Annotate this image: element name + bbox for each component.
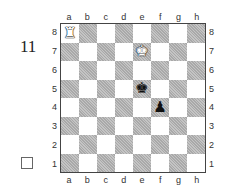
square-c8 xyxy=(97,24,115,43)
square-b3 xyxy=(79,117,97,136)
rank-labels-left: 8 7 6 5 4 3 2 1 xyxy=(52,23,57,173)
square-b8 xyxy=(79,24,97,43)
square-e2 xyxy=(133,135,151,154)
side-to-move-box xyxy=(21,157,33,169)
square-f5 xyxy=(151,80,169,99)
square-d4 xyxy=(115,98,133,117)
square-e1 xyxy=(133,154,151,173)
square-h3 xyxy=(187,117,205,136)
square-d5 xyxy=(115,80,133,99)
file-label: b xyxy=(78,12,96,22)
square-a8: ♜ xyxy=(61,24,79,43)
square-h4 xyxy=(187,98,205,117)
square-f1 xyxy=(151,154,169,173)
rank-label: 3 xyxy=(52,117,57,136)
white-king-icon: ♚ xyxy=(135,44,148,59)
square-b7 xyxy=(79,43,97,62)
square-a6 xyxy=(61,61,79,80)
rank-label: 4 xyxy=(52,98,57,117)
square-a7 xyxy=(61,43,79,62)
square-c7 xyxy=(97,43,115,62)
square-a1 xyxy=(61,154,79,173)
square-e8 xyxy=(133,24,151,43)
white-rook-icon: ♜ xyxy=(63,26,76,41)
square-c6 xyxy=(97,61,115,80)
file-label: f xyxy=(151,12,169,22)
square-a3 xyxy=(61,117,79,136)
rank-label: 1 xyxy=(52,154,57,173)
square-b1 xyxy=(79,154,97,173)
file-label: h xyxy=(188,12,206,22)
rank-label: 2 xyxy=(52,136,57,155)
square-h6 xyxy=(187,61,205,80)
square-g2 xyxy=(169,135,187,154)
square-d3 xyxy=(115,117,133,136)
file-label: c xyxy=(97,12,115,22)
square-d7 xyxy=(115,43,133,62)
square-c5 xyxy=(97,80,115,99)
file-label: c xyxy=(97,175,115,185)
square-h5 xyxy=(187,80,205,99)
rank-label: 7 xyxy=(209,42,214,61)
square-d6 xyxy=(115,61,133,80)
rank-label: 6 xyxy=(52,61,57,80)
file-label: f xyxy=(151,175,169,185)
file-label: g xyxy=(170,12,188,22)
square-f6 xyxy=(151,61,169,80)
square-c3 xyxy=(97,117,115,136)
rank-label: 4 xyxy=(209,98,214,117)
square-g8 xyxy=(169,24,187,43)
chess-board: ♜♚♚♟ xyxy=(60,23,206,173)
rank-label: 5 xyxy=(52,79,57,98)
file-label: d xyxy=(115,175,133,185)
square-c1 xyxy=(97,154,115,173)
square-d1 xyxy=(115,154,133,173)
square-e4 xyxy=(133,98,151,117)
file-label: a xyxy=(60,175,78,185)
square-h7 xyxy=(187,43,205,62)
square-h8 xyxy=(187,24,205,43)
file-labels-top: a b c d e f g h xyxy=(60,12,206,22)
square-f8 xyxy=(151,24,169,43)
square-f2 xyxy=(151,135,169,154)
square-d2 xyxy=(115,135,133,154)
square-e7: ♚ xyxy=(133,43,151,62)
square-b4 xyxy=(79,98,97,117)
rank-label: 3 xyxy=(209,117,214,136)
rank-label: 1 xyxy=(209,154,214,173)
rank-label: 8 xyxy=(209,23,214,42)
file-label: e xyxy=(133,175,151,185)
square-g7 xyxy=(169,43,187,62)
square-e5: ♚ xyxy=(133,80,151,99)
black-king-icon: ♚ xyxy=(135,81,148,96)
diagram-number: 11 xyxy=(20,37,36,57)
square-b2 xyxy=(79,135,97,154)
square-a5 xyxy=(61,80,79,99)
file-label: a xyxy=(60,12,78,22)
square-a4 xyxy=(61,98,79,117)
square-e3 xyxy=(133,117,151,136)
square-g3 xyxy=(169,117,187,136)
square-b6 xyxy=(79,61,97,80)
square-b5 xyxy=(79,80,97,99)
file-label: d xyxy=(115,12,133,22)
rank-label: 7 xyxy=(52,42,57,61)
rank-label: 8 xyxy=(52,23,57,42)
square-e6 xyxy=(133,61,151,80)
square-h2 xyxy=(187,135,205,154)
square-g1 xyxy=(169,154,187,173)
square-g5 xyxy=(169,80,187,99)
square-f3 xyxy=(151,117,169,136)
square-f4: ♟ xyxy=(151,98,169,117)
square-d8 xyxy=(115,24,133,43)
rank-labels-right: 8 7 6 5 4 3 2 1 xyxy=(209,23,214,173)
square-f7 xyxy=(151,43,169,62)
file-label: g xyxy=(170,175,188,185)
rank-label: 2 xyxy=(209,136,214,155)
file-labels-bottom: a b c d e f g h xyxy=(60,175,206,185)
square-a2 xyxy=(61,135,79,154)
file-label: b xyxy=(78,175,96,185)
square-h1 xyxy=(187,154,205,173)
file-label: h xyxy=(188,175,206,185)
black-pawn-icon: ♟ xyxy=(153,100,166,115)
